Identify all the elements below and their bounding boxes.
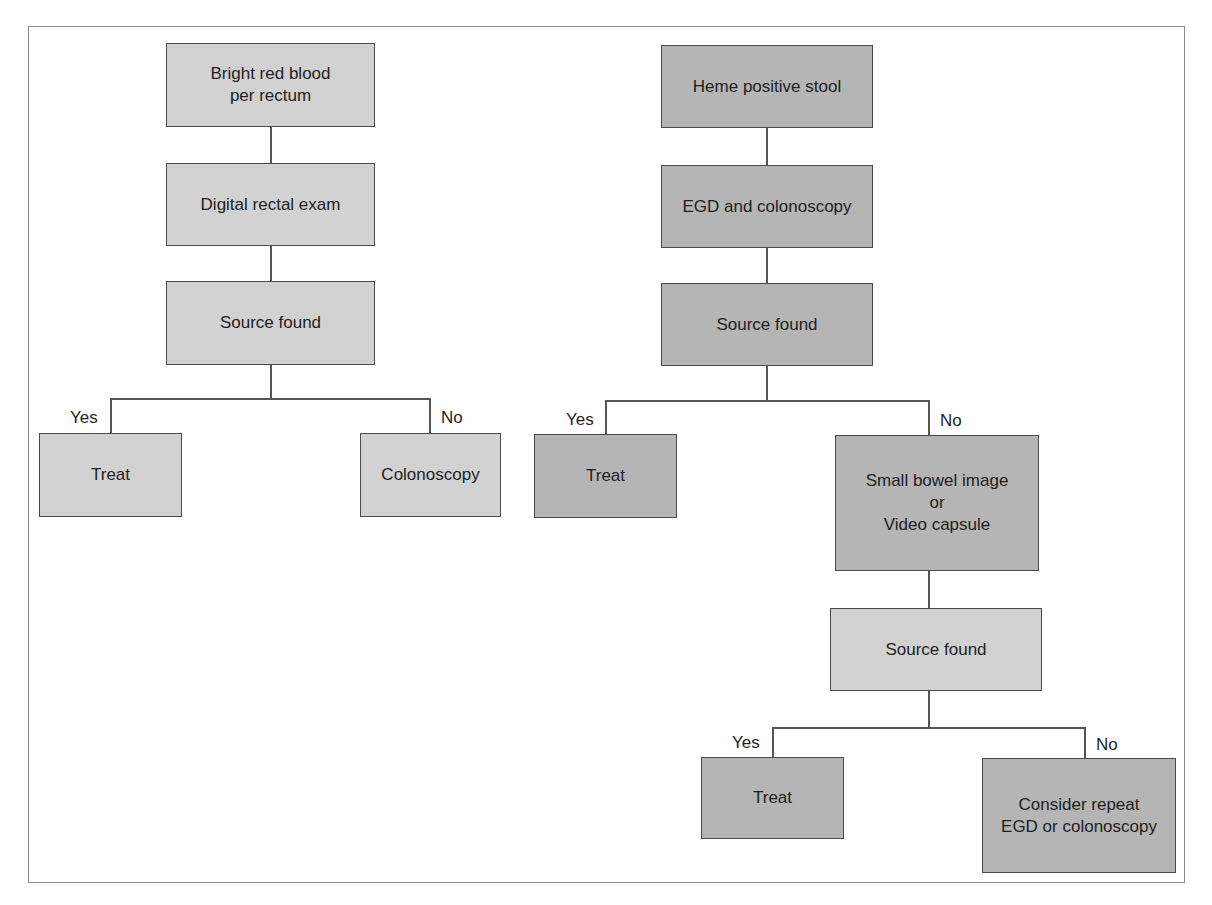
connector <box>928 400 930 436</box>
connector <box>1084 727 1086 758</box>
connector <box>429 398 431 433</box>
yes-label: Yes <box>732 733 760 753</box>
node-treat-bottom: Treat <box>701 757 844 839</box>
connector <box>270 365 272 399</box>
node-colonoscopy: Colonoscopy <box>360 433 501 517</box>
connector <box>110 398 112 433</box>
node-egd-colonoscopy: EGD and colonoscopy <box>661 165 873 248</box>
node-heme-positive-stool: Heme positive stool <box>661 45 873 128</box>
connector <box>270 127 272 163</box>
yes-label: Yes <box>566 410 594 430</box>
node-source-found-second: Source found <box>830 608 1042 691</box>
branch-line <box>605 400 929 402</box>
no-label: No <box>940 411 962 431</box>
node-source-found-left: Source found <box>166 281 375 365</box>
node-bright-red-blood: Bright red blood per rectum <box>166 43 375 127</box>
connector <box>270 246 272 281</box>
connector <box>766 128 768 165</box>
connector <box>605 400 607 435</box>
connector <box>772 727 774 758</box>
connector <box>766 366 768 401</box>
connector <box>928 691 930 728</box>
branch-line <box>772 727 1086 729</box>
connector <box>766 248 768 283</box>
node-small-bowel-image: Small bowel image or Video capsule <box>835 435 1039 571</box>
node-source-found-right: Source found <box>661 283 873 366</box>
connector <box>928 571 930 608</box>
yes-label: Yes <box>70 408 98 428</box>
no-label: No <box>1096 735 1118 755</box>
node-treat-right: Treat <box>534 434 677 518</box>
no-label: No <box>441 408 463 428</box>
node-consider-repeat: Consider repeat EGD or colonoscopy <box>982 758 1176 873</box>
node-treat-left: Treat <box>39 433 182 517</box>
branch-line <box>110 398 430 400</box>
node-digital-rectal-exam: Digital rectal exam <box>166 163 375 246</box>
